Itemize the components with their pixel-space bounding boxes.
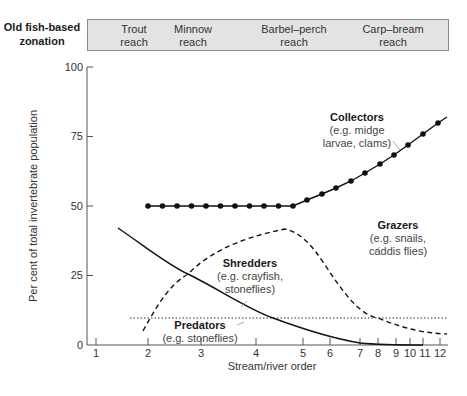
svg-text:25: 25	[71, 269, 83, 281]
svg-text:4: 4	[253, 347, 259, 359]
svg-text:0: 0	[77, 339, 83, 351]
grazers-name: Grazers	[369, 219, 427, 232]
shredders-examples: (e.g. crayfish,	[217, 270, 283, 283]
svg-text:11: 11	[419, 347, 430, 359]
label-collectors: Collectors (e.g. midge larvae, clams)	[323, 111, 391, 150]
shredders-name: Shredders	[217, 257, 283, 270]
collectors-examples: larvae, clams)	[323, 137, 391, 150]
x-axis-label: Stream/river order	[228, 360, 317, 372]
predators-examples: (e.g. stoneflies)	[162, 332, 237, 345]
collectors-markers	[145, 120, 441, 209]
label-predators: Predators (e.g. stoneflies)	[162, 319, 237, 345]
svg-text:7: 7	[357, 347, 363, 359]
svg-text:9: 9	[393, 347, 399, 359]
grazers-examples: (e.g. snails,	[369, 232, 427, 245]
svg-text:8: 8	[375, 347, 381, 359]
label-grazers: Grazers (e.g. snails, caddis flies)	[369, 219, 427, 258]
label-shredders: Shredders (e.g. crayfish, stoneflies)	[217, 257, 283, 296]
collectors-name: Collectors	[323, 111, 391, 124]
svg-text:75: 75	[71, 130, 83, 142]
svg-text:5: 5	[300, 347, 306, 359]
predators-name: Predators	[162, 319, 237, 332]
svg-text:100: 100	[65, 61, 83, 73]
svg-text:1: 1	[93, 347, 99, 359]
y-axis-label: Per cent of total invertebrate populatio…	[27, 110, 39, 302]
svg-text:3: 3	[198, 347, 204, 359]
svg-text:6: 6	[327, 347, 333, 359]
svg-text:50: 50	[71, 200, 83, 212]
svg-text:12: 12	[434, 347, 446, 359]
tick-labels: 100 75 50 25 0 1 2 3 4 5 6 7 8 9 10 11 1…	[65, 61, 446, 359]
series-collectors	[148, 117, 447, 206]
svg-text:2: 2	[145, 347, 151, 359]
grazers-examples: caddis flies)	[369, 245, 427, 258]
shredders-examples: stoneflies)	[217, 283, 283, 296]
svg-text:10: 10	[404, 347, 416, 359]
collectors-examples: (e.g. midge	[323, 124, 391, 137]
